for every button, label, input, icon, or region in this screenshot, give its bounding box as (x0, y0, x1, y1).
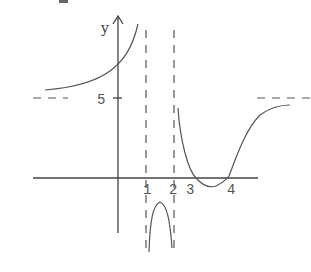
curve-branch-right (178, 105, 290, 187)
curve-branch-left (45, 24, 138, 90)
function-graph: y 5 1 2 3 4 (0, 0, 311, 272)
tick-label-1: 1 (143, 182, 151, 198)
tick-label-2: 2 (169, 182, 177, 198)
tick-label-5: 5 (97, 92, 105, 108)
tick-label-3: 3 (186, 182, 194, 198)
tick-label-4: 4 (227, 182, 235, 198)
y-axis-label: y (100, 20, 109, 36)
curve-branch-middle (149, 202, 172, 252)
